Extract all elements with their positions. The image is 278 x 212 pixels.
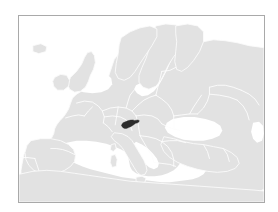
sardinia-island [110,155,117,168]
locator-map-figure [0,0,278,212]
map-frame [18,15,265,203]
europe-map [19,16,264,202]
ireland-island [53,74,70,90]
iceland-island [33,44,47,54]
